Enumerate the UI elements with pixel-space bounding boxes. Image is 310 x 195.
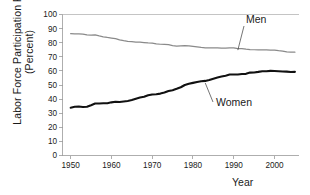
x-tick-label: 1960 bbox=[102, 161, 121, 170]
series-line-men bbox=[71, 34, 295, 52]
y-tick-label: 50 bbox=[48, 81, 58, 90]
x-axis-ticks: 195019601970198019902000 bbox=[62, 156, 285, 171]
x-tick-label: 1970 bbox=[143, 161, 162, 170]
x-tick-label: 1980 bbox=[184, 161, 203, 170]
plot-area: 0102030405060708090100 19501960197019801… bbox=[0, 0, 310, 195]
y-tick-label: 60 bbox=[48, 67, 58, 76]
y-tick-label: 80 bbox=[48, 39, 58, 48]
x-tick-label: 2000 bbox=[265, 161, 284, 170]
x-tick-label: 1950 bbox=[62, 161, 81, 170]
series-label-men: Men bbox=[246, 13, 267, 25]
series-label-women: Women bbox=[216, 96, 252, 108]
x-tick-label: 1990 bbox=[225, 161, 244, 170]
y-tick-label: 70 bbox=[48, 53, 58, 62]
women-leader-line bbox=[205, 83, 213, 102]
series-line-women bbox=[71, 71, 295, 108]
y-tick-label: 40 bbox=[48, 95, 58, 104]
men-leader-line bbox=[238, 26, 244, 50]
y-tick-label: 10 bbox=[48, 137, 58, 146]
y-tick-label: 30 bbox=[48, 109, 58, 118]
y-tick-label: 20 bbox=[48, 123, 58, 132]
chart-container: Labor Force Participation Rate (Percent)… bbox=[0, 0, 310, 195]
y-tick-label: 0 bbox=[52, 151, 57, 160]
y-tick-label: 100 bbox=[43, 10, 57, 19]
y-tick-label: 90 bbox=[48, 25, 58, 34]
y-axis-ticks: 0102030405060708090100 bbox=[43, 10, 62, 160]
